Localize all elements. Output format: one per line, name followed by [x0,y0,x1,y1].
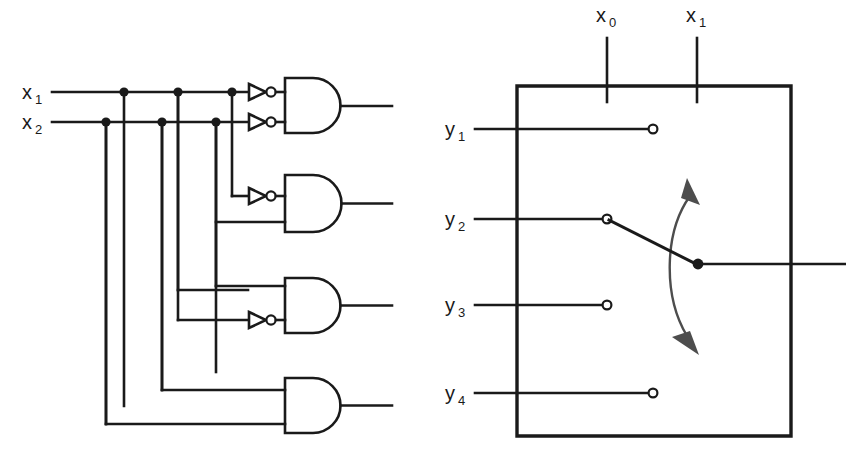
contact-label-y4-subscript: 4 [458,393,465,408]
figure-canvas: x 1 x 2 [0,0,846,472]
contact-terminal-y3 [603,301,612,310]
contact-label-y1-subscript: 1 [458,129,465,144]
inverter-triangle-g1-bottom [249,114,266,130]
gate-1 [249,78,392,133]
switch-enclosure-box [517,86,791,436]
control-label-x0: x 0 [596,4,616,30]
contact-terminal-y4 [649,389,658,398]
rotation-arrowhead-down [672,331,699,355]
contact-label-y3-base: y [445,294,455,316]
input-label-x2-subscript: 2 [35,122,42,137]
control-label-x0-subscript: 0 [609,15,616,30]
rotation-arrowhead-up [681,178,700,205]
input-label-x1: x 1 [22,81,42,107]
contact-terminal-y1 [649,125,658,134]
left-panel-logic-circuit: x 1 x 2 [22,78,392,433]
inverter-bubble-g3 [266,315,275,324]
gate-2 [249,175,392,232]
contact-y1: y 1 [445,118,657,144]
contact-y2: y 2 [445,208,611,234]
control-label-x0-base: x [596,4,606,26]
contact-label-y1-base: y [445,118,455,140]
junction-dot-x1-a [119,87,128,96]
inverter-triangle-g2 [249,188,266,204]
contact-label-y2-base: y [445,208,455,230]
right-panel-rotary-switch: x 0 x 1 y 1 y 2 [445,4,846,436]
input-label-x2-base: x [22,111,32,133]
contact-label-y2-subscript: 2 [458,219,465,234]
inverter-bubble-g1-top [266,87,275,96]
inverter-triangle-g1-top [249,84,266,100]
control-label-x1: x 1 [686,4,706,30]
contact-y4: y 4 [445,382,657,408]
and-gate-body-4 [285,378,341,433]
contact-y3: y 3 [445,294,611,320]
inverter-bubble-g1-bottom [266,117,275,126]
junction-dot-x1-c [227,87,236,96]
input-label-x1-base: x [22,81,32,103]
gate-3 [178,278,392,333]
and-gate-body-3 [285,278,341,333]
control-label-x1-base: x [686,4,696,26]
gate-4 [285,378,392,433]
input-label-x1-subscript: 1 [35,92,42,107]
inverter-bubble-g2 [266,191,275,200]
rotation-arc [670,196,690,336]
input-label-x2: x 2 [22,111,42,137]
contact-label-y3-subscript: 3 [458,305,465,320]
and-gate-body-1 [285,78,340,133]
control-label-x1-subscript: 1 [699,15,706,30]
circuit-diagram-svg: x 1 x 2 [0,0,846,472]
inverter-triangle-g3 [249,312,266,328]
switch-blade [609,220,694,263]
contact-label-y4-base: y [445,382,455,404]
and-gate-body-2 [285,175,342,232]
